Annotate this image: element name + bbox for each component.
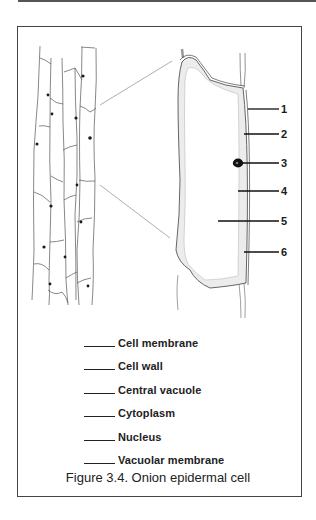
zoom-connector-bottom	[100, 185, 170, 238]
label-legend: Cell membrane Cell wall Central vacuole …	[84, 326, 224, 467]
answer-blank[interactable]	[84, 346, 115, 347]
legend-label: Cytoplasm	[118, 407, 175, 420]
legend-item: Nucleus	[84, 420, 224, 444]
legend-item: Central vacuole	[84, 373, 224, 397]
enlarged-cell	[176, 49, 250, 318]
legend-item: Cytoplasm	[84, 397, 224, 421]
epidermal-tissue	[32, 46, 96, 305]
legend-label: Central vacuole	[118, 384, 201, 397]
legend-item: Cell wall	[84, 350, 224, 374]
answer-blank[interactable]	[84, 416, 115, 417]
answer-blank[interactable]	[84, 369, 115, 370]
legend-label: Nucleus	[118, 431, 162, 444]
figure-caption: Figure 3.4. Onion epidermal cell	[0, 470, 316, 485]
legend-label: Cell membrane	[118, 337, 198, 350]
zoom-connector-top	[100, 61, 172, 105]
answer-blank[interactable]	[84, 440, 115, 441]
callout-number-1: 1	[281, 103, 287, 115]
legend-item: Vacuolar membrane	[84, 444, 224, 468]
callout-number-5: 5	[281, 215, 287, 227]
callout-number-2: 2	[281, 128, 287, 140]
legend-label: Vacuolar membrane	[118, 454, 224, 467]
legend-label: Cell wall	[118, 360, 163, 373]
legend-item: Cell membrane	[84, 326, 224, 350]
answer-blank[interactable]	[84, 463, 115, 464]
callout-number-3: 3	[281, 157, 287, 169]
callout-number-6: 6	[281, 246, 287, 258]
callout-number-4: 4	[281, 185, 287, 197]
answer-blank[interactable]	[84, 393, 115, 394]
